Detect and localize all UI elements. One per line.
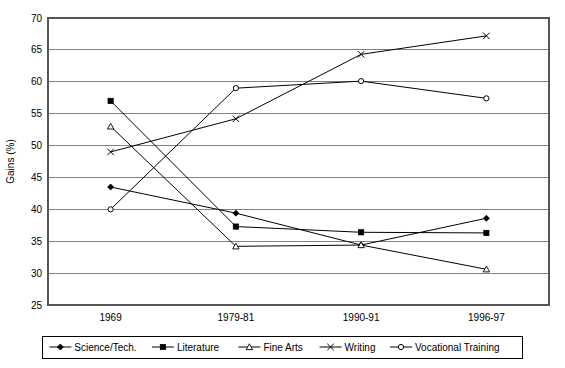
- x-axis-tick-label: 1979-81: [218, 312, 255, 323]
- y-axis-tick-label: 50: [31, 140, 43, 151]
- legend-label: Writing: [345, 342, 376, 353]
- y-axis-tick-label: 35: [31, 236, 43, 247]
- y-axis-tick-label: 30: [31, 268, 43, 279]
- y-axis-title: Gains (%): [5, 139, 16, 183]
- data-point-marker: [233, 224, 238, 229]
- data-point-marker: [484, 96, 489, 101]
- y-axis-tick-label: 45: [31, 172, 43, 183]
- x-axis-tick-label: 1996-97: [468, 312, 505, 323]
- data-point-marker: [359, 79, 364, 84]
- legend-label: Fine Arts: [263, 342, 302, 353]
- y-axis-tick-label: 70: [31, 13, 43, 24]
- plot-background: [48, 18, 549, 305]
- y-axis-tick-labels: 25303540455055606570: [31, 13, 43, 311]
- data-point-marker: [484, 230, 489, 235]
- data-point-marker: [108, 207, 113, 212]
- x-axis-tick-labels: 19691979-811990-911996-97: [100, 312, 506, 323]
- y-axis-tick-label: 40: [31, 204, 43, 215]
- x-axis-tick-label: 1990-91: [343, 312, 380, 323]
- data-point-marker: [108, 98, 113, 103]
- legend-marker: [398, 344, 403, 349]
- legend-label: Vocational Training: [415, 342, 500, 353]
- y-axis-tick-label: 65: [31, 44, 43, 55]
- legend-label: Science/Tech.: [74, 342, 136, 353]
- x-axis-tick-label: 1969: [100, 312, 123, 323]
- line-chart: 25303540455055606570Gains (%)19691979-81…: [0, 0, 565, 368]
- y-axis-tick-label: 60: [31, 76, 43, 87]
- y-axis-tick-label: 25: [31, 300, 43, 311]
- legend-marker: [160, 344, 165, 349]
- legend: Science/Tech.LiteratureFine ArtsWritingV…: [42, 336, 522, 358]
- legend-label: Literature: [177, 342, 220, 353]
- chart-canvas: 25303540455055606570Gains (%)19691979-81…: [0, 0, 565, 368]
- data-point-marker: [233, 86, 238, 91]
- y-axis-tick-label: 55: [31, 108, 43, 119]
- data-point-marker: [359, 230, 364, 235]
